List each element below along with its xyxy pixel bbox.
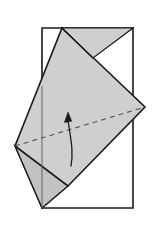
origami-fold-diagram bbox=[0, 0, 159, 244]
origami-diagram-root bbox=[0, 0, 159, 244]
